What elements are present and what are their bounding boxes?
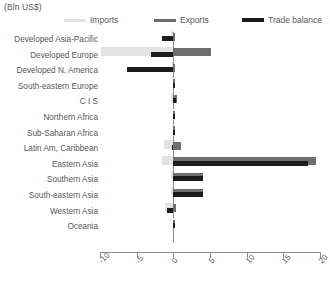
bar-trade-balance	[173, 192, 202, 197]
x-axis-tick-label: -5	[134, 254, 145, 265]
legend-item-exports: Exports	[154, 14, 209, 26]
bar-exports	[173, 204, 176, 212]
category-label: Southern Asia	[47, 175, 98, 185]
x-axis-tick-label: 0	[170, 256, 180, 266]
bar-group	[100, 170, 320, 184]
bar-group	[100, 30, 320, 44]
bar-exports	[173, 48, 211, 56]
category-label: Western Asia	[50, 207, 98, 217]
bar-trade-balance	[151, 52, 174, 57]
bar-imports	[162, 156, 174, 165]
bar-group	[100, 92, 320, 106]
category-label: Oceania	[68, 222, 99, 232]
category-label: South-eastern Asia	[29, 191, 98, 201]
bar-trade-balance	[173, 161, 307, 166]
bar-group	[100, 77, 320, 91]
bar-group	[100, 202, 320, 216]
legend-swatch-icon	[242, 18, 264, 22]
category-label: Developed N. America	[17, 66, 98, 76]
category-label: C I S	[80, 97, 98, 107]
legend-label: Trade balance	[268, 14, 322, 26]
category-axis-labels: Developed Asia-PacificDeveloped EuropeDe…	[0, 32, 98, 250]
bars-area	[100, 32, 320, 250]
x-axis-tick-label: 20	[317, 253, 330, 266]
bar-group	[100, 155, 320, 169]
bar-group	[100, 217, 320, 231]
legend-item-trade-balance: Trade balance	[242, 14, 322, 26]
legend-label: Exports	[180, 14, 209, 26]
bar-group	[100, 124, 320, 138]
legend-item-imports: Imports	[64, 14, 118, 26]
bar-trade-balance	[127, 67, 173, 72]
chart-legend: ImportsExportsTrade balance	[64, 14, 322, 26]
bar-trade-balance	[172, 145, 173, 150]
category-label: Developed Asia-Pacific	[14, 35, 98, 45]
bar-group	[100, 61, 320, 75]
bar-trade-balance	[173, 176, 202, 181]
bar-group	[100, 139, 320, 153]
x-axis-tick-label: 15	[280, 253, 293, 266]
category-label: Latin Am, Caribbean	[24, 144, 98, 154]
bar-trade-balance	[173, 130, 174, 135]
bar-exports	[173, 64, 174, 72]
category-label: Eastern Asia	[52, 160, 98, 170]
bar-group	[100, 108, 320, 122]
plot-area: Developed Asia-PacificDeveloped EuropeDe…	[0, 32, 324, 252]
bar-trade-balance	[173, 83, 174, 88]
bar-group	[100, 46, 320, 60]
category-label: Northern Africa	[43, 113, 98, 123]
unit-label: (Bln US$)	[4, 2, 42, 12]
bar-trade-balance	[173, 114, 174, 119]
x-axis-tick-label: 10	[244, 253, 257, 266]
legend-swatch-icon	[154, 19, 176, 22]
legend-swatch-icon	[64, 19, 86, 22]
legend-label: Imports	[90, 14, 118, 26]
category-label: Developed Europe	[30, 51, 98, 61]
category-label: Sub-Saharan Africa	[27, 129, 98, 139]
bar-trade-balance	[167, 208, 173, 213]
bar-trade-balance	[173, 98, 175, 103]
bar-trade-balance	[173, 223, 174, 228]
bar-exports	[173, 33, 174, 41]
x-axis-tick-label: 5	[207, 256, 217, 266]
bar-exports	[173, 142, 181, 150]
bar-trade-balance	[162, 36, 174, 41]
category-label: South-eastern Europe	[18, 82, 98, 92]
bar-group	[100, 186, 320, 200]
